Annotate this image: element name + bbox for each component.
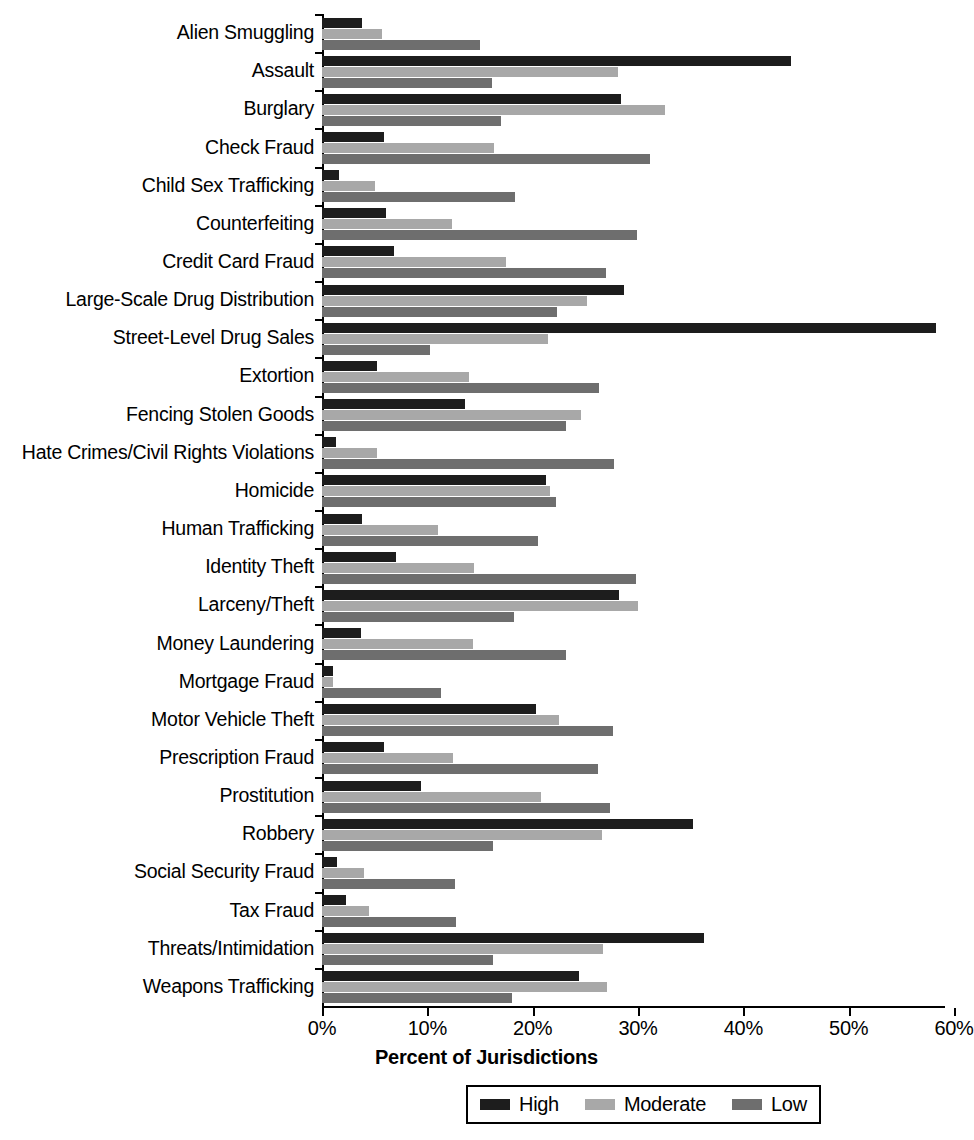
y-axis-category-label: Child Sex Trafficking	[142, 175, 322, 195]
category-group: Check Fraud	[322, 128, 954, 166]
y-axis-category-label: Extortion	[239, 365, 322, 385]
legend-entry-low[interactable]: Low	[732, 1093, 807, 1116]
y-axis-category-label: Threats/Intimidation	[148, 938, 322, 958]
y-axis-category-label: Identity Theft	[205, 556, 322, 576]
y-tick-mark	[315, 663, 322, 665]
y-tick-mark	[315, 396, 322, 398]
moderate-swatch-icon	[585, 1099, 615, 1110]
category-group: Robbery	[322, 815, 954, 853]
y-tick-mark	[315, 52, 322, 54]
category-group: Threats/Intimidation	[322, 930, 954, 968]
category-group: Child Sex Trafficking	[322, 167, 954, 205]
bar-moderate	[322, 677, 333, 687]
x-tick-label: 30%	[618, 1017, 657, 1040]
category-group: Burglary	[322, 90, 954, 128]
x-tick-label: 50%	[829, 1017, 868, 1040]
bar-moderate	[322, 525, 438, 535]
bar-high	[322, 18, 362, 28]
bar-low	[322, 268, 606, 278]
legend-label: Low	[771, 1093, 807, 1116]
legend-entry-moderate[interactable]: Moderate	[585, 1093, 706, 1116]
bar-high	[322, 819, 693, 829]
y-tick-mark	[315, 319, 322, 321]
bar-high	[322, 361, 377, 371]
y-tick-mark	[315, 777, 322, 779]
bar-high	[322, 94, 621, 104]
bar-high	[322, 857, 337, 867]
y-tick-mark	[315, 510, 322, 512]
bar-low	[322, 993, 512, 1003]
x-tick-mark	[954, 1008, 956, 1016]
bar-moderate	[322, 105, 665, 115]
bar-moderate	[322, 67, 618, 77]
y-tick-mark	[315, 357, 322, 359]
bar-low	[322, 40, 480, 50]
bar-low	[322, 879, 455, 889]
x-tick-label: 10%	[408, 1017, 447, 1040]
y-axis-category-label: Prostitution	[219, 785, 322, 805]
bar-low	[322, 116, 501, 126]
y-axis-category-label: Prescription Fraud	[159, 747, 322, 767]
y-tick-mark	[315, 701, 322, 703]
y-tick-mark	[315, 586, 322, 588]
y-axis-category-label: Check Fraud	[205, 137, 322, 157]
x-tick-label: 40%	[724, 1017, 763, 1040]
category-group: Credit Card Fraud	[322, 243, 954, 281]
bar-low	[322, 574, 636, 584]
category-group: Fencing Stolen Goods	[322, 396, 954, 434]
y-axis-category-label: Robbery	[242, 823, 322, 843]
category-group: Tax Fraud	[322, 892, 954, 930]
y-tick-mark	[315, 14, 322, 16]
x-tick-mark	[322, 1008, 324, 1016]
bar-high	[322, 933, 704, 943]
y-tick-mark	[315, 434, 322, 436]
category-group: Motor Vehicle Theft	[322, 701, 954, 739]
y-axis-category-label: Counterfeiting	[196, 213, 322, 233]
category-group: Larceny/Theft	[322, 586, 954, 624]
bar-low	[322, 307, 557, 317]
x-tick-mark	[743, 1008, 745, 1016]
x-axis-line	[322, 1006, 945, 1008]
bar-low	[322, 917, 456, 927]
bar-high	[322, 475, 546, 485]
category-group: Human Trafficking	[322, 510, 954, 548]
y-axis-category-label: Credit Card Fraud	[162, 251, 322, 271]
bar-moderate	[322, 601, 638, 611]
bar-moderate	[322, 143, 494, 153]
y-axis-category-label: Large-Scale Drug Distribution	[65, 289, 322, 309]
bar-moderate	[322, 448, 377, 458]
bar-moderate	[322, 639, 473, 649]
plot-area: Alien SmugglingAssaultBurglaryCheck Frau…	[322, 14, 954, 1006]
y-axis-category-label: Weapons Trafficking	[143, 976, 322, 996]
bar-low	[322, 154, 650, 164]
bar-low	[322, 764, 598, 774]
bar-moderate	[322, 372, 469, 382]
y-tick-mark	[315, 281, 322, 283]
bar-high	[322, 704, 536, 714]
bar-high	[322, 285, 624, 295]
legend-entry-high[interactable]: High	[480, 1093, 559, 1116]
bar-high	[322, 552, 396, 562]
category-group: Homicide	[322, 472, 954, 510]
x-tick-mark	[849, 1008, 851, 1016]
y-axis-category-label: Homicide	[235, 480, 322, 500]
chart-legend: HighModerateLow	[466, 1085, 821, 1124]
category-group: Money Laundering	[322, 624, 954, 662]
bar-moderate	[322, 334, 548, 344]
category-group: Social Security Fraud	[322, 853, 954, 891]
category-group: Hate Crimes/Civil Rights Violations	[322, 434, 954, 472]
category-group: Street-Level Drug Sales	[322, 319, 954, 357]
bar-low	[322, 230, 637, 240]
bar-high	[322, 170, 339, 180]
bar-moderate	[322, 906, 369, 916]
bar-low	[322, 459, 614, 469]
y-tick-mark	[315, 548, 322, 550]
y-axis-category-label: Motor Vehicle Theft	[151, 709, 322, 729]
bar-moderate	[322, 296, 587, 306]
y-tick-mark	[315, 243, 322, 245]
bar-high	[322, 437, 336, 447]
bar-high	[322, 323, 936, 333]
x-tick-label: 60%	[934, 1017, 973, 1040]
x-tick-label: 20%	[513, 1017, 552, 1040]
